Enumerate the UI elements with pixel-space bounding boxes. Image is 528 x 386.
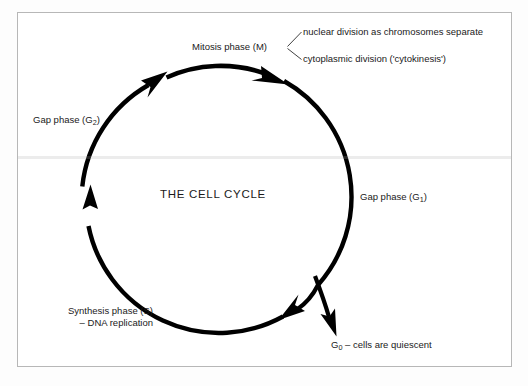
diagram-title: THE CELL CYCLE xyxy=(160,188,266,200)
leader-line-nuclear-division xyxy=(288,32,302,47)
label-g0-subscript: 0 xyxy=(338,343,342,352)
label-nuclear-division: nuclear division as chromosomes separate xyxy=(303,26,483,38)
label-gap-g2-text: Gap phase (G xyxy=(33,114,93,125)
label-cytoplasmic-division: cytoplasmic division ('cytokinesis') xyxy=(303,53,446,65)
arc-g1-to-synthesis xyxy=(297,285,318,310)
leader-line-cytokinesis xyxy=(288,49,302,60)
arrowhead-synthesis-to-g2 xyxy=(83,185,99,210)
label-mitosis-phase: Mitosis phase (M) xyxy=(192,41,267,53)
label-g0-text: – cells are quiescent xyxy=(345,339,432,350)
arc-g2-segment xyxy=(82,85,148,187)
label-gap-g1-close: ) xyxy=(424,191,427,202)
arrowhead-g2-to-mitosis xyxy=(141,72,168,98)
label-synthesis-line1: Synthesis phase (S) xyxy=(68,305,153,316)
arc-g1-segment xyxy=(284,81,351,285)
label-gap-g1-text: Gap phase (G xyxy=(360,191,420,202)
label-gap-g1-subscript: 1 xyxy=(420,195,424,204)
label-gap-g2-close: ) xyxy=(97,114,100,125)
label-g0-quiescent: G0 – cells are quiescent xyxy=(331,339,432,352)
label-gap-phase-g1: Gap phase (G1) xyxy=(360,191,427,204)
label-synthesis-phase: Synthesis phase (S)– DNA replication xyxy=(43,305,153,329)
cell-cycle-figure: THE CELL CYCLE Mitosis phase (M) nuclear… xyxy=(0,0,528,386)
label-gap-phase-g2: Gap phase (G2) xyxy=(33,114,100,127)
arc-mitosis-segment xyxy=(167,66,266,78)
label-synthesis-line2: – DNA replication xyxy=(80,317,153,328)
label-gap-g2-subscript: 2 xyxy=(93,118,97,127)
